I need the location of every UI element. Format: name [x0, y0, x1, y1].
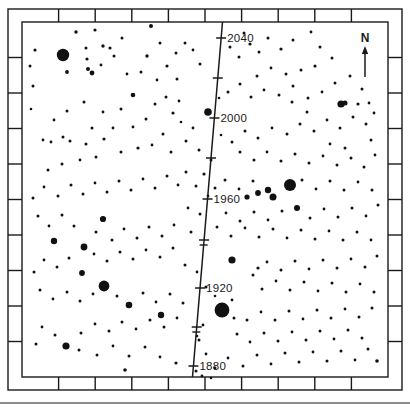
star-marker	[198, 149, 201, 152]
star-marker	[148, 226, 151, 229]
star-marker	[126, 302, 133, 309]
star-marker	[270, 363, 273, 366]
star-marker	[239, 83, 242, 86]
star-marker	[253, 211, 256, 214]
star-marker	[56, 266, 59, 269]
epoch-year-label: 1960	[214, 193, 241, 205]
star-marker	[119, 251, 122, 254]
star-marker	[266, 151, 269, 154]
star-marker	[314, 238, 317, 241]
star-marker	[184, 42, 187, 45]
star-marker	[253, 159, 256, 162]
star-marker	[65, 70, 69, 74]
star-marker	[255, 190, 261, 196]
star-marker	[344, 308, 347, 311]
star-marker	[258, 51, 261, 54]
star-marker	[365, 123, 368, 126]
star-marker	[350, 157, 353, 160]
star-marker	[326, 119, 329, 122]
star-marker	[132, 126, 135, 129]
star-marker	[350, 258, 353, 261]
star-marker	[298, 361, 301, 364]
star-marker	[101, 44, 104, 47]
star-marker	[83, 101, 86, 104]
star-marker	[288, 310, 291, 313]
star-marker	[136, 146, 139, 149]
star-marker	[227, 91, 230, 94]
star-marker	[100, 216, 106, 222]
star-marker	[367, 348, 370, 351]
star-marker	[357, 181, 360, 184]
star-marker	[108, 46, 111, 49]
star-marker	[294, 205, 300, 211]
star-marker	[120, 151, 123, 154]
star-marker	[182, 302, 185, 305]
star-marker	[347, 329, 350, 332]
star-marker	[192, 127, 195, 130]
star-marker	[351, 207, 354, 210]
chart-background	[0, 0, 410, 409]
star-marker	[373, 291, 376, 294]
star-marker	[329, 143, 332, 146]
star-marker	[252, 180, 255, 183]
star-marker	[51, 238, 57, 244]
star-marker	[313, 64, 316, 67]
star-marker	[180, 121, 183, 124]
star-marker	[202, 172, 205, 175]
star-marker	[299, 123, 302, 126]
star-marker	[195, 185, 198, 188]
star-marker	[91, 127, 94, 130]
star-marker	[165, 96, 168, 99]
star-marker	[130, 189, 133, 192]
star-marker	[344, 147, 347, 150]
star-marker	[377, 204, 380, 207]
star-marker	[196, 271, 199, 274]
star-marker	[261, 288, 264, 291]
star-marker	[313, 130, 316, 133]
star-marker	[149, 319, 152, 322]
star-marker	[62, 342, 69, 349]
star-marker	[61, 163, 64, 166]
star-marker	[43, 186, 46, 189]
star-marker	[165, 64, 168, 67]
star-marker	[62, 136, 65, 139]
star-marker	[271, 127, 274, 130]
star-marker	[292, 39, 295, 42]
star-marker	[239, 151, 242, 154]
star-marker	[277, 340, 280, 343]
north-label: N	[361, 31, 370, 45]
star-marker	[156, 79, 159, 82]
star-marker	[359, 283, 362, 286]
star-marker	[135, 328, 138, 331]
star-marker	[210, 377, 213, 380]
star-marker	[225, 212, 228, 215]
star-marker	[321, 91, 324, 94]
star-marker	[142, 178, 145, 181]
star-marker	[328, 230, 331, 233]
star-marker	[300, 69, 303, 72]
star-marker	[128, 355, 131, 358]
star-marker	[163, 326, 166, 329]
star-marker	[284, 352, 287, 355]
star-marker	[286, 237, 289, 240]
star-marker	[230, 235, 233, 238]
star-marker	[175, 52, 178, 55]
epoch-year-label: 1920	[206, 282, 233, 294]
star-marker	[286, 133, 289, 136]
star-marker	[267, 37, 270, 40]
star-marker	[361, 88, 364, 91]
starfield-canvas: 20402000196019201880 N	[0, 0, 410, 409]
star-marker	[161, 235, 164, 238]
star-marker	[371, 307, 374, 310]
star-marker	[263, 89, 266, 92]
star-marker	[356, 102, 359, 105]
star-marker	[256, 266, 259, 269]
star-marker	[345, 291, 348, 294]
star-marker	[136, 237, 139, 240]
star-marker	[319, 46, 322, 49]
star-marker	[32, 85, 35, 88]
star-marker	[178, 100, 181, 103]
star-marker	[159, 42, 162, 45]
star-marker	[48, 225, 51, 228]
star-marker	[371, 189, 374, 192]
